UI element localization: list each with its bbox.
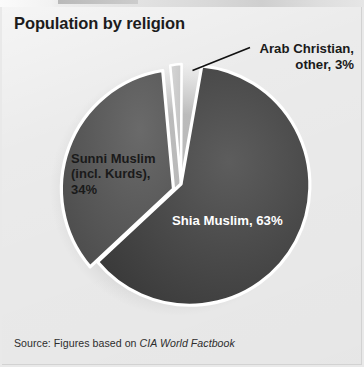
source-note-publication: CIA World Factbook — [140, 337, 235, 349]
slice-label-arab-christian-line2: other, 3% — [194, 57, 354, 73]
source-note-prefix: Source: Figures based on — [14, 337, 140, 349]
slice-label-arab-christian: Arab Christian, other, 3% — [194, 41, 354, 72]
slice-label-shia: Shia Muslim, 63% — [172, 213, 283, 229]
source-note: Source: Figures based on CIA World Factb… — [14, 337, 235, 349]
slice-label-sunni-line3: 34% — [71, 182, 191, 197]
chart-figure: Population by religion — [0, 0, 364, 367]
slice-label-sunni: Sunni Muslim (incl. Kurds), 34% — [71, 151, 191, 197]
slice-label-sunni-line1: Sunni Muslim — [71, 151, 191, 166]
slice-label-sunni-line2: (incl. Kurds), — [71, 166, 191, 181]
slice-label-arab-christian-line1: Arab Christian, — [194, 41, 354, 57]
